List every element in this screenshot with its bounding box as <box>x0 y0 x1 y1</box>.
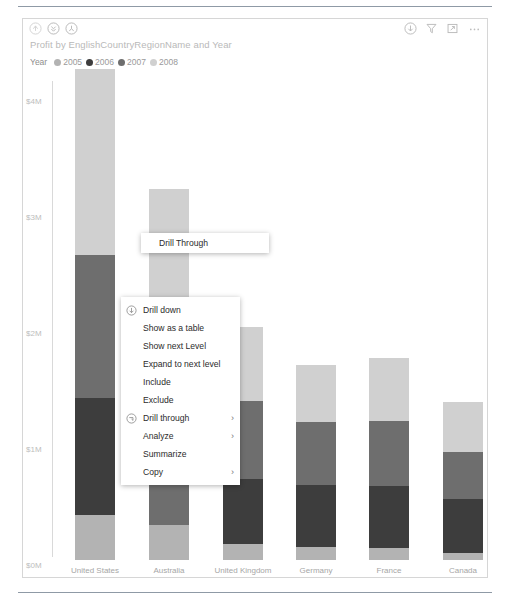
legend-label-2005: 2005 <box>63 57 82 67</box>
legend-swatch-2005 <box>54 59 61 66</box>
context-menu-label: Summarize <box>143 449 186 459</box>
bar-segment-2008[interactable] <box>296 365 336 422</box>
bar-segment-2005[interactable] <box>443 553 483 560</box>
legend-item-2005[interactable]: 2005 <box>54 57 82 67</box>
bar-segment-2005[interactable] <box>75 515 115 560</box>
bar-segment-2007[interactable] <box>75 255 115 398</box>
expand-next-level-icon[interactable] <box>65 22 78 35</box>
legend: Year 2005 2006 2007 2008 <box>30 57 178 67</box>
screenshot-page: Profit by EnglishCountryRegionName and Y… <box>0 0 509 599</box>
chart-plot-area: $4M $3M $2M $1M $0M <box>23 75 487 577</box>
y-tick-2m: $2M <box>26 329 42 338</box>
context-menu-item-show-as-a-table[interactable]: Show as a table <box>121 319 240 337</box>
legend-swatch-2008 <box>150 59 157 66</box>
context-menu-item-summarize[interactable]: Summarize <box>121 445 240 463</box>
legend-label-2007: 2007 <box>127 57 146 67</box>
context-menu-item-analyze[interactable]: Analyze › <box>121 427 240 445</box>
drill-through-icon <box>126 412 137 423</box>
drill-controls <box>29 22 78 35</box>
bar-segment-2006[interactable] <box>296 485 336 547</box>
bar-segment-2008[interactable] <box>369 358 409 421</box>
y-tick-3m: $3M <box>26 213 42 222</box>
bar-canada[interactable] <box>443 402 483 560</box>
bar-segment-2005[interactable] <box>149 525 189 560</box>
drill-through-icon[interactable] <box>404 22 417 35</box>
bar-segment-2007[interactable] <box>296 422 336 485</box>
bar-segment-2007[interactable] <box>443 452 483 499</box>
context-menu: Drill down Show as a table Show next Lev… <box>121 297 240 485</box>
bar-segment-2007[interactable] <box>369 421 409 486</box>
bar-segment-2008[interactable] <box>443 402 483 452</box>
x-label-canada: Canada <box>420 566 506 575</box>
chevron-right-icon: › <box>231 409 234 427</box>
visual-header <box>23 19 487 39</box>
context-menu-label: Exclude <box>143 395 174 405</box>
drill-up-icon[interactable] <box>29 22 42 35</box>
legend-label-2008: 2008 <box>159 57 178 67</box>
legend-item-2007[interactable]: 2007 <box>118 57 146 67</box>
context-menu-item-copy[interactable]: Copy › <box>121 463 240 481</box>
bar-segment-2006[interactable] <box>75 398 115 515</box>
context-menu-item-expand-to-next-level[interactable]: Expand to next level <box>121 355 240 373</box>
context-menu-label: Show next Level <box>143 341 206 351</box>
context-menu-item-drill-down[interactable]: Drill down <box>121 301 240 319</box>
context-menu-item-include[interactable]: Include <box>121 373 240 391</box>
context-menu-label: Drill down <box>143 305 181 315</box>
bar-segment-2008[interactable] <box>75 69 115 255</box>
bar-segment-2005[interactable] <box>223 544 263 560</box>
context-menu-label: Show as a table <box>143 323 204 333</box>
bar-france[interactable] <box>369 358 409 560</box>
drill-through-submenu: Drill Through <box>141 233 269 253</box>
drill-down-icon <box>126 304 137 315</box>
chevron-right-icon: › <box>231 463 234 481</box>
page-rule-top <box>18 6 492 7</box>
context-menu-item-show-next-level[interactable]: Show next Level <box>121 337 240 355</box>
submenu-item-drill-through[interactable]: Drill Through <box>141 233 269 253</box>
filter-icon[interactable] <box>425 22 438 35</box>
context-menu-label: Expand to next level <box>143 359 220 369</box>
bar-united-states[interactable] <box>75 69 115 560</box>
y-tick-1m: $1M <box>26 445 42 454</box>
y-tick-4m: $4M <box>26 97 42 106</box>
legend-label-2006: 2006 <box>95 57 114 67</box>
drill-down-mode-icon[interactable] <box>47 22 60 35</box>
bar-segment-2006[interactable] <box>369 486 409 548</box>
context-menu-label: Copy <box>143 467 163 477</box>
bar-segment-2005[interactable] <box>369 548 409 560</box>
y-axis-line <box>52 81 53 557</box>
legend-item-2008[interactable]: 2008 <box>150 57 178 67</box>
focus-mode-icon[interactable] <box>446 22 459 35</box>
page-rule-bottom <box>18 592 492 593</box>
legend-item-2006[interactable]: 2006 <box>86 57 114 67</box>
legend-swatch-2006 <box>86 59 93 66</box>
visual-title: Profit by EnglishCountryRegionName and Y… <box>30 39 232 50</box>
chevron-right-icon: › <box>231 427 234 445</box>
bar-segment-2006[interactable] <box>443 499 483 553</box>
report-visual: Profit by EnglishCountryRegionName and Y… <box>22 18 488 578</box>
context-menu-label: Analyze <box>143 431 174 441</box>
context-menu-label: Drill through <box>143 413 189 423</box>
context-menu-label: Include <box>143 377 171 387</box>
legend-swatch-2007 <box>118 59 125 66</box>
y-tick-0m: $0M <box>26 561 42 570</box>
context-menu-item-exclude[interactable]: Exclude <box>121 391 240 409</box>
bar-segment-2005[interactable] <box>296 547 336 560</box>
legend-title: Year <box>30 57 47 67</box>
more-options-icon[interactable] <box>467 22 480 35</box>
context-menu-item-drill-through[interactable]: Drill through › <box>121 409 240 427</box>
visual-header-actions <box>404 22 480 35</box>
bar-germany[interactable] <box>296 365 336 560</box>
bar-segment-2006[interactable] <box>223 479 263 544</box>
